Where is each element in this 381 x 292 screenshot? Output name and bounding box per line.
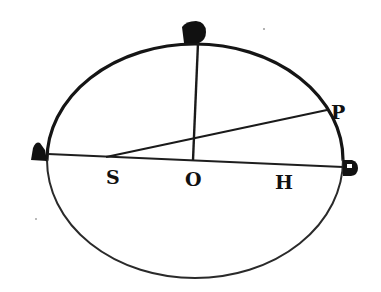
label-o: O xyxy=(185,170,202,189)
label-h: H xyxy=(275,173,293,192)
major-axis-line xyxy=(48,154,343,167)
print-speck xyxy=(263,28,265,30)
radius-vector-line xyxy=(106,110,327,157)
print-speck xyxy=(35,218,37,220)
label-p: P xyxy=(331,103,345,122)
diagram-canvas: A B B P S O H xyxy=(0,0,381,292)
minor-axis-line xyxy=(193,43,198,160)
label-s: S xyxy=(106,168,120,187)
